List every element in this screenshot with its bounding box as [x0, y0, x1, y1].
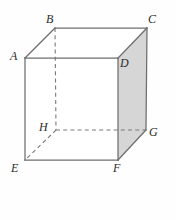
face-front: [25, 58, 118, 160]
vertex-label-E: E: [11, 162, 18, 174]
cube-figure: A B C D E F G H: [0, 0, 176, 220]
vertex-label-C: C: [148, 13, 156, 25]
cube-drawing: [0, 0, 176, 220]
vertex-label-D: D: [120, 57, 129, 69]
vertex-label-G: G: [149, 126, 158, 138]
vertex-label-B: B: [46, 13, 53, 25]
vertex-label-A: A: [10, 50, 17, 62]
vertex-label-H: H: [39, 121, 48, 133]
vertex-label-F: F: [113, 162, 120, 174]
